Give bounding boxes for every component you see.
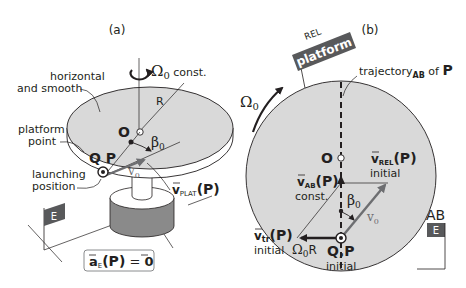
vtr-label: vtr(P) — [254, 227, 293, 244]
vplat-label: vPLAT(P) — [172, 181, 220, 198]
radius-label: R — [156, 95, 164, 108]
qp-b-point-inner — [339, 236, 343, 240]
ground-line-x — [44, 225, 112, 250]
panel-a-label: (a) — [109, 23, 126, 37]
frame-e-flag: E — [44, 203, 65, 250]
vab-label: vAB(P) — [297, 173, 339, 190]
launch-point-inner — [101, 170, 105, 174]
vtr-note: initial — [254, 244, 284, 257]
center-o-b-label: O — [321, 150, 333, 166]
kinematics-diagram: (a) E Ω0 const. R O — [0, 0, 466, 288]
panel-a: (a) E Ω0 const. R O — [17, 23, 233, 271]
ab-label: AB — [426, 207, 445, 223]
panel-b-label: (b) — [362, 23, 379, 37]
vrel-label: vREL(P) — [371, 150, 417, 167]
qp-b-label: Q,P — [327, 243, 354, 259]
vrel-note: initial — [370, 167, 400, 180]
surface-label-2: and smooth — [17, 82, 82, 95]
rel-label: REL — [303, 26, 322, 41]
ab-flag-text: E — [433, 225, 439, 236]
qp-a-label: Q P — [89, 150, 116, 166]
omega-a-label: Ω0 const. — [151, 62, 207, 81]
ground-line-left — [28, 225, 62, 262]
omega-b-label: Ω0 — [240, 93, 259, 112]
pedestal — [110, 175, 174, 237]
vab-note: const. — [295, 190, 328, 203]
panel-b: (b) platform REL Ω0 trajectoryAB of P O … — [240, 23, 453, 273]
platform-point-label-2: point — [28, 135, 57, 148]
trajectory-label: trajectoryAB of P — [359, 62, 453, 80]
qp-b-note: initial — [326, 260, 356, 273]
flag-e-text: E — [51, 211, 57, 222]
launch-label-2: position — [32, 180, 76, 193]
center-o-b-point — [338, 155, 344, 161]
center-o-label: O — [118, 124, 130, 140]
rotation-arrow-icon — [131, 70, 149, 79]
rel-platform-flag: platform REL — [292, 26, 356, 88]
